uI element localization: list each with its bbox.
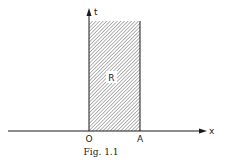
- origin-label: O: [85, 134, 92, 144]
- t-axis-arrow-icon: [87, 8, 92, 16]
- x-axis-arrow-icon: [199, 129, 207, 134]
- region-label: R: [108, 73, 114, 83]
- diagram: R t x O A Fig. 1.1: [0, 0, 230, 168]
- t-axis-label: t: [94, 7, 98, 17]
- figure-caption: Fig. 1.1: [84, 147, 119, 157]
- point-a-label: A: [137, 134, 144, 144]
- x-axis-label: x: [209, 126, 215, 136]
